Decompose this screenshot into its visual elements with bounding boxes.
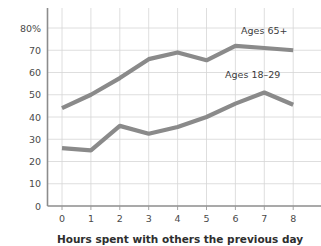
line-chart: 01020304050607080% 012345678 Ages 65+Age…	[0, 0, 321, 246]
y-axis-tick-label: 30	[29, 134, 41, 145]
x-axis-tick-label: 1	[88, 213, 94, 224]
x-axis-tick-label: 5	[203, 213, 209, 224]
y-axis-tick-label: 0	[35, 201, 41, 212]
y-axis-tick-label: 20	[29, 156, 41, 167]
series-annotation-label: Ages 18–29	[225, 69, 280, 80]
x-axis-tick-label: 6	[232, 213, 238, 224]
y-axis-tick-label: 70	[29, 45, 41, 56]
x-axis-tick-label: 4	[175, 213, 181, 224]
y-axis-tick-label: 60	[29, 67, 41, 78]
y-axis-tick-label: 50	[29, 89, 41, 100]
y-axis-tick-label: 10	[29, 178, 41, 189]
y-axis-tick-label: 80%	[20, 23, 41, 34]
series-annotation-label: Ages 65+	[241, 25, 287, 36]
x-axis-tick-label: 7	[261, 213, 267, 224]
chart-canvas: 01020304050607080% 012345678 Ages 65+Age…	[0, 0, 321, 246]
x-axis-tick-label: 8	[290, 213, 296, 224]
x-axis-tick-label: 2	[117, 213, 123, 224]
y-axis-tick-label: 40	[29, 112, 41, 123]
x-axis-title: Hours spent with others the previous day	[57, 233, 303, 245]
x-axis-tick-label: 0	[59, 213, 65, 224]
x-axis-tick-label: 3	[146, 213, 152, 224]
